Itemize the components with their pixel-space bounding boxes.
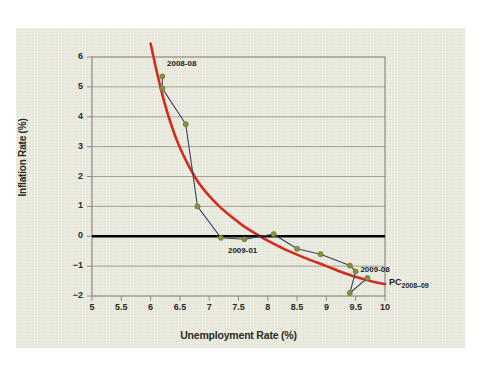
data-point-marker [295,246,300,251]
x-tick-label: 8 [253,302,283,312]
data-point-marker [365,275,370,280]
data-point-marker [318,252,323,257]
data-point-marker [347,290,352,295]
chart-annotation: 2009-01 [228,246,257,255]
y-tick-label: 2 [61,171,83,181]
x-tick-marks [87,57,385,301]
data-point-marker [218,235,223,240]
x-axis-title: Unemployment Rate (%) [92,329,385,341]
x-tick-label: 10 [370,302,400,312]
data-point-markers [160,74,370,296]
y-tick-label: 0 [61,230,83,240]
y-tick-label: −2 [61,290,83,300]
x-tick-label: 8.5 [282,302,312,312]
data-point-marker [160,86,165,91]
data-point-marker [353,269,358,274]
x-tick-label: 7.5 [224,302,254,312]
data-point-marker [271,232,276,237]
x-tick-label: 7 [194,302,224,312]
x-tick-label: 5.5 [106,302,136,312]
y-tick-label: −1 [61,260,83,270]
phillips-curve-label: PC2008–09 [389,277,429,289]
x-tick-label: 9.5 [341,302,371,312]
data-point-marker [160,74,165,79]
pc-label-subscript: 2008–09 [402,282,429,289]
data-point-marker [242,237,247,242]
x-tick-label: 6 [136,302,166,312]
y-tick-label: 5 [61,81,83,91]
data-point-marker [195,204,200,209]
chart-annotation: 2009-08 [360,265,389,274]
figure-container: Inflation Rate (%) Unemployment Rate (%)… [0,0,498,369]
data-point-marker [183,122,188,127]
y-tick-label: 4 [61,111,83,121]
data-series-line [162,76,367,293]
data-point-marker [347,263,352,268]
pc-label-base: PC [389,277,402,287]
x-tick-label: 9 [311,302,341,312]
y-tick-label: 6 [61,51,83,61]
chart-annotation: 2008-08 [167,59,196,68]
y-tick-label: 1 [61,200,83,210]
phillips-curve-line [151,44,385,284]
y-tick-label: 3 [61,141,83,151]
x-tick-label: 6.5 [165,302,195,312]
x-tick-label: 5 [77,302,107,312]
y-axis-title: Inflation Rate (%) [17,98,28,218]
